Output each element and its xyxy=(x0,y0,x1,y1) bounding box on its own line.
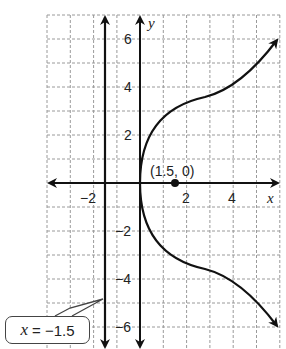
y-axis-label: y xyxy=(146,15,155,31)
x-tick-label: 2 xyxy=(182,190,190,206)
callout-pointer xyxy=(55,299,103,316)
x-axis-label: x xyxy=(266,190,274,206)
focus-label: (1.5, 0) xyxy=(150,163,194,179)
y-tick-label: 4 xyxy=(124,79,132,95)
y-tick-label: −6 xyxy=(115,319,131,335)
y-tick-label: −2 xyxy=(115,223,131,239)
directrix-variable: x xyxy=(20,320,28,340)
directrix-value: = −1.5 xyxy=(32,322,75,339)
x-tick-label: −2 xyxy=(80,190,96,206)
y-tick-label: 2 xyxy=(124,127,132,143)
x-tick-label: 4 xyxy=(228,190,236,206)
directrix-callout: x = −1.5 xyxy=(5,316,90,344)
y-tick-label: −4 xyxy=(115,271,131,287)
y-tick-label: 6 xyxy=(124,31,132,47)
coordinate-graph: (1.5, 0) −2 2 4 x 6 4 2 −2 −4 −6 y xyxy=(0,0,286,349)
focus-point xyxy=(171,179,179,187)
